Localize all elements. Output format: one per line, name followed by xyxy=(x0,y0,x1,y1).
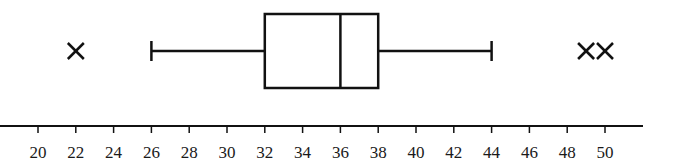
x-axis-tick-label: 40 xyxy=(408,143,425,162)
x-axis-tick-label: 38 xyxy=(370,143,387,162)
x-axis-tick-label: 26 xyxy=(143,143,160,162)
x-axis-tick-label: 46 xyxy=(521,143,538,162)
x-axis-tick-label: 32 xyxy=(256,143,273,162)
x-axis-tick-label: 22 xyxy=(67,143,84,162)
x-axis-tick-label: 48 xyxy=(559,143,576,162)
x-axis-tick-label: 20 xyxy=(30,143,47,162)
x-axis-tick-label: 28 xyxy=(181,143,198,162)
box-plot-chart: 20222426283032343638404244464850 xyxy=(0,0,673,166)
x-axis-tick-label: 36 xyxy=(332,143,349,162)
x-axis-tick-label: 30 xyxy=(219,143,236,162)
x-axis: 20222426283032343638404244464850 xyxy=(0,126,643,162)
x-axis-tick-label: 44 xyxy=(483,143,501,162)
outlier-cross-icon xyxy=(597,43,613,59)
interquartile-box xyxy=(265,14,378,88)
box-plot xyxy=(68,14,613,88)
x-axis-tick-label: 42 xyxy=(445,143,462,162)
x-axis-tick-label: 34 xyxy=(294,143,312,162)
outlier-cross-icon xyxy=(68,43,84,59)
x-axis-tick-label: 24 xyxy=(105,143,123,162)
outlier-cross-icon xyxy=(578,43,594,59)
x-axis-tick-label: 50 xyxy=(597,143,614,162)
